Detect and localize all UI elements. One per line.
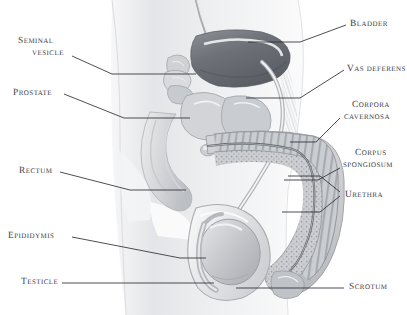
anatomy-figure-page: Seminal vesicle Prostate Rectum Epididym…: [0, 0, 407, 315]
label-scrotum-line1: Scrotum: [349, 282, 387, 292]
label-urethra-line1: Urethra: [345, 190, 383, 200]
label-rectum-line1: Rectum: [19, 166, 52, 176]
label-bladder-line1: Bladder: [350, 19, 388, 29]
label-epididymis: Epididymis: [8, 231, 54, 243]
label-corpora-cavernosa-line1: Corpora: [352, 100, 390, 110]
label-seminal-vesicle-line2: vesicle: [32, 48, 64, 60]
label-prostate-line1: Prostate: [13, 88, 52, 98]
label-prostate: Prostate: [13, 88, 52, 100]
label-corpus-spongiosum-line1: Corpus: [355, 148, 387, 158]
label-scrotum: Scrotum: [349, 282, 387, 294]
label-vas-deferens-line1: Vas deferens: [347, 64, 406, 74]
label-vas-deferens: Vas deferens: [347, 64, 406, 76]
label-testicle: Testicle: [21, 277, 58, 289]
label-corpus-spongiosum-line2: spongiosum: [343, 160, 393, 172]
label-epididymis-line1: Epididymis: [8, 231, 54, 241]
label-seminal-vesicle-line1: Seminal: [18, 36, 54, 46]
label-seminal-vesicle: Seminal vesicle: [18, 36, 64, 59]
label-testicle-line1: Testicle: [21, 277, 58, 287]
label-urethra: Urethra: [345, 190, 383, 202]
label-corpora-cavernosa-line2: cavernosa: [344, 112, 390, 124]
label-bladder: Bladder: [350, 19, 388, 31]
label-corpora-cavernosa: Corpora cavernosa: [352, 100, 390, 123]
label-corpus-spongiosum: Corpus spongiosum: [355, 148, 393, 171]
label-rectum: Rectum: [19, 166, 52, 178]
